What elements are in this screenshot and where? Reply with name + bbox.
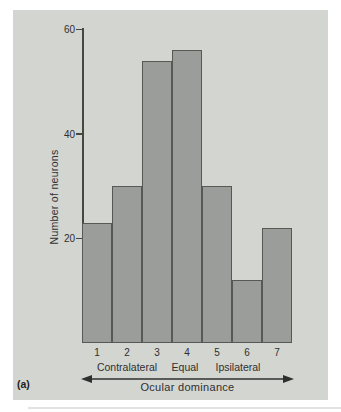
bar-category-3: [142, 61, 172, 343]
bar-category-6: [232, 280, 262, 343]
x-tick-label: 6: [232, 347, 262, 358]
y-tick-mark: [76, 29, 84, 31]
x-axis-title: Ocular dominance: [115, 381, 260, 393]
y-tick-label: 40: [55, 129, 75, 140]
bar-category-1: [82, 223, 112, 343]
panel-label: (a): [17, 378, 30, 390]
y-tick-mark: [76, 133, 84, 135]
x-tick-label: 4: [172, 347, 202, 358]
x-tick-label: 3: [142, 347, 172, 358]
x-tick-label: 7: [262, 347, 292, 358]
group-label-ipsilateral: Ipsilateral: [188, 361, 288, 373]
y-axis-title: Number of neurons: [48, 127, 62, 267]
page-edge-artifact: [28, 407, 341, 409]
y-tick-label: 20: [55, 233, 75, 244]
x-tick-label: 1: [82, 347, 112, 358]
bar-category-2: [112, 186, 142, 343]
bar-category-5: [202, 186, 232, 343]
bar-category-7: [262, 228, 292, 343]
x-tick-label: 2: [112, 347, 142, 358]
x-tick-label: 5: [202, 347, 232, 358]
figure-page: Number of neurons 204060 1234567 Contral…: [0, 0, 341, 412]
bar-category-4: [172, 50, 202, 343]
y-tick-label: 60: [55, 24, 75, 35]
chart-panel: Number of neurons 204060 1234567 Contral…: [13, 10, 328, 400]
